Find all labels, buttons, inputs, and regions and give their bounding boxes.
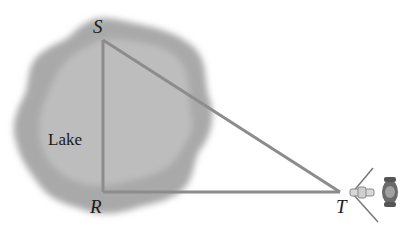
label-r: R (89, 196, 102, 217)
label-lake: Lake (48, 130, 82, 149)
label-t: T (336, 196, 348, 217)
diagram-canvas: S R T Lake (0, 0, 414, 227)
label-s: S (93, 16, 103, 37)
transit-instrument-icon (350, 168, 398, 222)
triangle-diagram: S R T Lake (0, 0, 414, 227)
